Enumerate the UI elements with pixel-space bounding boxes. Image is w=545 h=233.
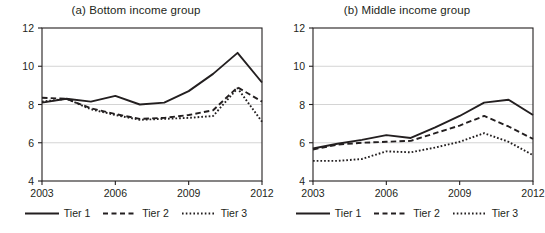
y-axis-tick-label: 6 — [271, 138, 305, 149]
plot-svg — [313, 28, 533, 181]
legend-label: Tier 2 — [413, 208, 439, 219]
series-line-tier-1 — [313, 100, 533, 149]
y-axis-tick-label: 4 — [271, 176, 305, 187]
chart-legend: Tier 1 Tier 2 Tier 3 — [271, 208, 543, 219]
legend-entry-tier-1: Tier 1 — [25, 208, 90, 219]
y-axis-tick-label: 10 — [271, 61, 305, 72]
plot-area — [42, 28, 262, 181]
x-axis-tick-label: 2003 — [293, 188, 333, 199]
legend-entry-tier-2: Tier 2 — [103, 208, 168, 219]
chart-legend: Tier 1 Tier 2 Tier 3 — [0, 208, 272, 219]
y-axis-tick-label: 8 — [0, 100, 34, 111]
y-axis-tick-label: 6 — [0, 138, 34, 149]
x-axis-tick-label: 2003 — [22, 188, 62, 199]
legend-label: Tier 2 — [142, 208, 168, 219]
y-axis-tick-label: 12 — [271, 23, 305, 34]
plot-area — [313, 28, 533, 181]
y-axis-tick-label: 4 — [0, 176, 34, 187]
chart-panel-middle-income: (b) Middle income group Tier 1 Tier 2 — [271, 0, 543, 233]
legend-entry-tier-3: Tier 3 — [453, 208, 518, 219]
legend-label: Tier 1 — [64, 208, 90, 219]
legend-label: Tier 3 — [492, 208, 518, 219]
legend-swatch-dotted-icon — [453, 209, 487, 218]
y-axis-tick-label: 12 — [0, 23, 34, 34]
x-axis-tick-label: 2006 — [366, 188, 406, 199]
legend-swatch-solid-icon — [25, 209, 59, 218]
x-axis-tick-label: 2012 — [513, 188, 545, 199]
x-axis-tick-label: 2009 — [440, 188, 480, 199]
x-axis-tick-label: 2006 — [95, 188, 135, 199]
chart-panel-bottom-income: (a) Bottom income group Tier 1 Tier 2 — [0, 0, 272, 233]
legend-swatch-solid-icon — [296, 209, 330, 218]
series-line-tier-1 — [42, 53, 262, 105]
y-axis-tick-label: 8 — [271, 100, 305, 111]
legend-entry-tier-3: Tier 3 — [182, 208, 247, 219]
x-axis-tick-label: 2009 — [169, 188, 209, 199]
legend-label: Tier 3 — [221, 208, 247, 219]
legend-swatch-dotted-icon — [182, 209, 216, 218]
series-line-tier-3 — [42, 88, 262, 121]
figure-root: (a) Bottom income group Tier 1 Tier 2 — [0, 0, 545, 233]
legend-swatch-dashed-icon — [374, 209, 408, 218]
y-axis-tick-label: 10 — [0, 61, 34, 72]
legend-entry-tier-2: Tier 2 — [374, 208, 439, 219]
series-line-tier-3 — [313, 133, 533, 161]
panel-title: (b) Middle income group — [271, 4, 543, 16]
plot-svg — [42, 28, 262, 181]
legend-swatch-dashed-icon — [103, 209, 137, 218]
legend-label: Tier 1 — [335, 208, 361, 219]
panel-title: (a) Bottom income group — [0, 4, 272, 16]
legend-entry-tier-1: Tier 1 — [296, 208, 361, 219]
